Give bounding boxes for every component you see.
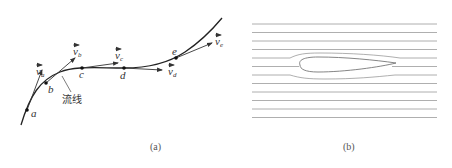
vector-label-vd: vd [168,65,177,79]
point-label-e: e [172,45,177,57]
vector-label-vb: vb [73,45,82,59]
point-label-a: a [31,107,37,119]
airfoil [300,57,396,72]
velocity-vector-vb [46,58,75,83]
streamline-points: abcde [25,45,178,119]
streamline-leader-line [62,76,71,92]
point-label-d: d [120,69,126,81]
panel-b: (b) [252,24,437,153]
caption-b: (b) [343,141,355,153]
streamline-label: 流线 [62,93,82,105]
flow-line-deflected [252,75,437,79]
vector-label-ve: ve [215,35,223,49]
point-a [25,108,29,112]
caption-a: (a) [150,141,161,153]
vector-label-vc: vc [115,49,124,63]
panel-a: vavbvcvdve abcde 流线 (a) [21,18,223,153]
point-label-b: b [48,83,54,95]
velocity-vector-vd [124,68,162,70]
point-label-c: c [79,68,84,80]
figure: vavbvcvdve abcde 流线 (a) (b) [0,0,452,168]
flow-line-deflected [252,53,437,58]
vector-label-va: va [36,65,45,79]
